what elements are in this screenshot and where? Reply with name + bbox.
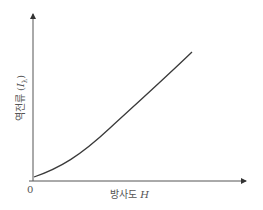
y-axis-label: 역전류 (Iλ): [12, 75, 29, 121]
chart-canvas: [0, 0, 263, 210]
reverse-current-curve: [34, 52, 192, 177]
origin-label: 0: [27, 184, 33, 195]
x-axis-label: 방사도 H: [110, 186, 149, 201]
